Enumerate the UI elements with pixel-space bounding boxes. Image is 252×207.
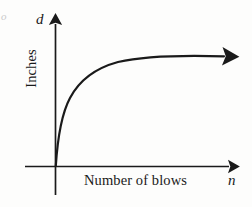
y-axis-title: Inches bbox=[23, 34, 40, 104]
data-curve bbox=[56, 56, 224, 166]
x-axis-title: Number of blows bbox=[84, 172, 187, 189]
y-axis-variable-label: d bbox=[36, 12, 44, 27]
x-axis-variable-label: n bbox=[228, 173, 236, 188]
figure-container: o d n Inches Number of blows bbox=[0, 0, 252, 207]
